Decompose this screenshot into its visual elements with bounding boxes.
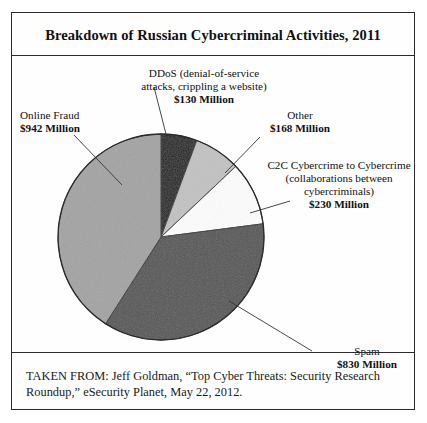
slice-label-c2c-name: C2C Cybercrime to Cybercrime [244,159,427,172]
slice-label-spam: Spam $830 Million [312,345,422,371]
slice-label-other-value: $168 Million [240,122,360,135]
slice-label-other: Other $168 Million [240,109,360,135]
slice-label-online-fraud: Online Fraud $942 Million [20,109,140,135]
slice-label-ddos-name: DDoS (denial-of-service [104,67,304,80]
slice-label-ddos-value: $130 Million [104,93,304,106]
figure-panel: Breakdown of Russian Cybercriminal Activ… [11,12,415,410]
source-note: TAKEN FROM: Jeff Goldman, “Top Cyber Thr… [26,369,402,401]
slice-label-c2c-name3: cybercriminals) [244,185,427,198]
slice-label-online-fraud-value: $942 Million [20,122,140,135]
slice-label-other-name: Other [240,109,360,122]
slice-label-c2c-value: $230 Million [244,198,427,211]
slice-label-c2c: C2C Cybercrime to Cybercrime (collaborat… [244,159,427,211]
slice-label-c2c-name2: (collaborations between [244,172,427,185]
leader-line-spam [229,301,312,351]
source-divider [12,352,414,353]
slice-label-ddos: DDoS (denial-of-service attacks, crippli… [104,67,304,106]
slice-label-ddos-name2: attacks, crippling a website) [104,80,304,93]
slice-label-online-fraud-name: Online Fraud [20,109,140,122]
